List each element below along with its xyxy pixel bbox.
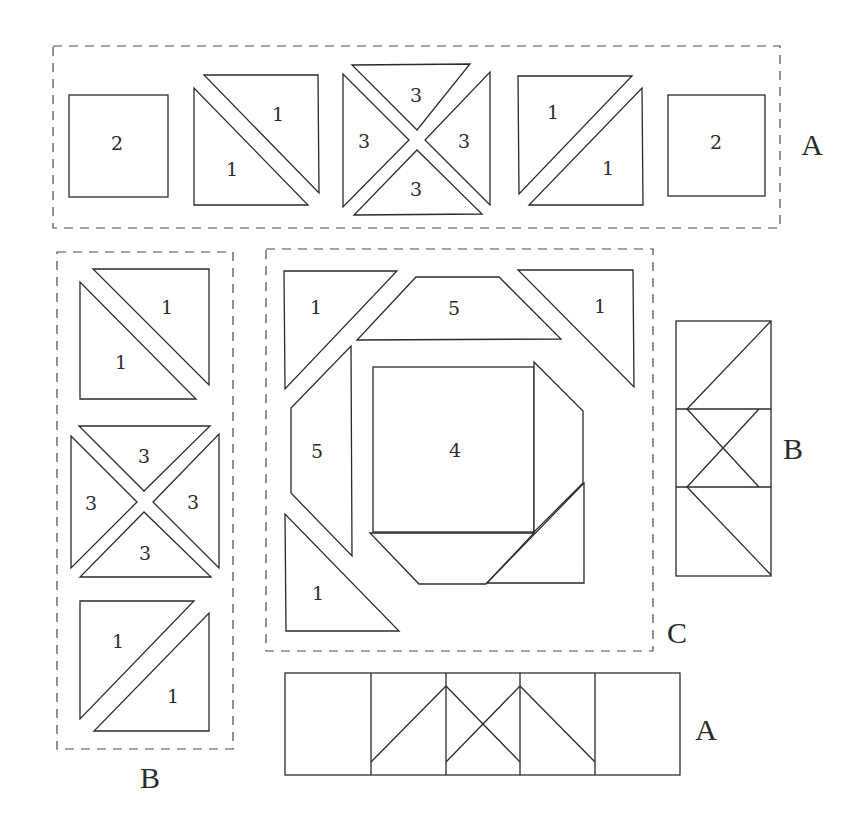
center-block-group-c: 1 5 1 5 4 1 C bbox=[266, 249, 687, 651]
left-qst-bottom-label: 3 bbox=[139, 542, 151, 564]
center-trapezoid-top-label: 5 bbox=[448, 297, 460, 319]
center-trapezoid-left-label: 5 bbox=[311, 440, 323, 462]
left-hst-top-lower-label: 1 bbox=[115, 351, 127, 373]
left-column-group-b: 1 1 3 3 3 3 1 1 B bbox=[57, 252, 233, 794]
top-qst-top-label: 3 bbox=[410, 84, 422, 106]
right-strip-group-letter: B bbox=[783, 432, 803, 465]
right-strip-group-b: B bbox=[676, 321, 803, 576]
top-hst-left-lower-label: 1 bbox=[226, 158, 238, 180]
top-hst-right-lower-label: 1 bbox=[602, 157, 614, 179]
bottom-strip-group-a: A bbox=[285, 673, 717, 775]
top-square-right-label: 2 bbox=[710, 131, 722, 153]
top-square-left-label: 2 bbox=[111, 132, 123, 154]
center-square-label: 4 bbox=[449, 439, 461, 461]
bottom-strip-group-letter: A bbox=[695, 713, 717, 746]
left-qst-top-label: 3 bbox=[138, 445, 150, 467]
left-column-group-letter: B bbox=[140, 761, 160, 794]
top-qst-right-label: 3 bbox=[458, 130, 470, 152]
center-corner-top-right-label: 1 bbox=[594, 295, 606, 317]
top-hst-left-upper-label: 1 bbox=[272, 103, 284, 125]
left-hst-top-upper-label: 1 bbox=[161, 296, 173, 318]
left-hst-bottom-upper-label: 1 bbox=[112, 630, 124, 652]
quilt-block-diagram: 2 1 1 3 3 3 3 1 1 2 A 1 1 bbox=[0, 0, 865, 837]
top-row-group-a: 2 1 1 3 3 3 3 1 1 2 A bbox=[53, 46, 823, 228]
center-block-group-letter: C bbox=[667, 616, 687, 649]
center-corner-bottom-left-label: 1 bbox=[312, 582, 324, 604]
left-qst-right-label: 3 bbox=[187, 491, 199, 513]
top-hst-right-upper-label: 1 bbox=[547, 101, 559, 123]
top-row-group-letter: A bbox=[801, 128, 823, 161]
left-hst-bottom-lower-label: 1 bbox=[167, 685, 179, 707]
top-qst-bottom-label: 3 bbox=[410, 178, 422, 200]
left-qst-left-label: 3 bbox=[85, 492, 97, 514]
center-corner-top-left-label: 1 bbox=[310, 296, 322, 318]
top-qst-left-label: 3 bbox=[358, 130, 370, 152]
